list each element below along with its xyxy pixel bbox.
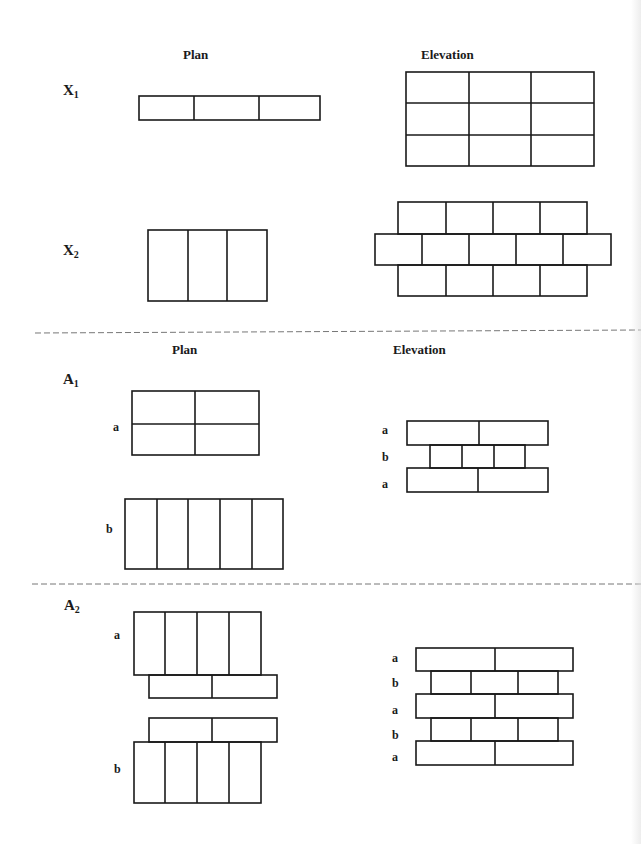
a1-plan-a-diagram [132, 391, 259, 455]
x2-elevation-diagram [375, 202, 611, 296]
a2-plan-a-diagram [134, 612, 277, 698]
brick-bond-drawings [0, 0, 641, 844]
x2-plan-diagram [148, 230, 267, 301]
page-edge-shadow [631, 0, 641, 844]
a2-plan-b-diagram [134, 718, 277, 803]
x1-elevation-diagram [406, 72, 594, 166]
a1-elevation-diagram [407, 421, 548, 492]
a1-plan-b-diagram [125, 499, 283, 569]
x1-plan-diagram [139, 96, 320, 120]
a2-elevation-diagram [416, 648, 573, 765]
section-dividers [32, 330, 641, 584]
